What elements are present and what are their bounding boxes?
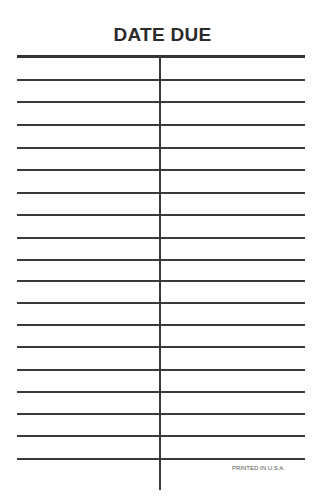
row-line (17, 101, 305, 103)
row-line (17, 369, 305, 371)
card-title: DATE DUE (0, 24, 325, 46)
row-line (17, 192, 305, 194)
header-rule (17, 55, 305, 58)
row-line (17, 124, 305, 126)
row-line (17, 413, 305, 415)
row-line (17, 324, 305, 326)
row-line (17, 302, 305, 304)
row-line (17, 280, 305, 282)
column-divider (159, 56, 161, 490)
printed-in-label: PRINTED IN U.S.A. (232, 465, 285, 471)
row-line (17, 79, 305, 81)
row-line (17, 237, 305, 239)
row-line (17, 346, 305, 348)
row-line (17, 435, 305, 437)
row-line (17, 458, 305, 460)
row-line (17, 147, 305, 149)
row-line (17, 259, 305, 261)
row-line (17, 391, 305, 393)
row-line (17, 169, 305, 171)
row-line (17, 214, 305, 216)
